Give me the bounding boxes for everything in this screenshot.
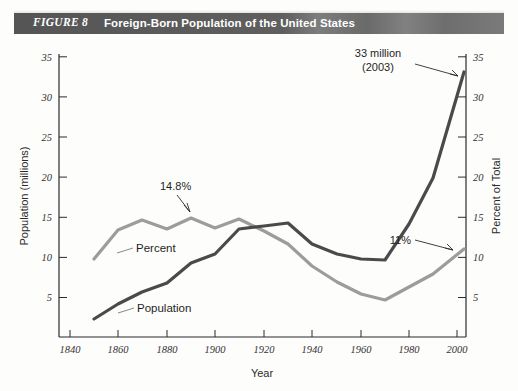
annotation-end-percent-text: 11% bbox=[390, 234, 411, 246]
y-tick-label-35: 35 bbox=[41, 52, 53, 63]
y-tick-label-5: 5 bbox=[47, 292, 52, 303]
y-tick-label-15: 15 bbox=[42, 212, 53, 223]
y-tick-label-10: 10 bbox=[42, 252, 53, 263]
chart-plot: 35 30 25 20 15 10 5 35 30 25 20 15 10 5 bbox=[0, 0, 518, 391]
y2-tick-label-5: 5 bbox=[473, 292, 478, 303]
y2-tick-label-20: 20 bbox=[473, 172, 484, 183]
x-tick-label-1900: 1900 bbox=[205, 344, 227, 355]
x-tick-label-1980: 1980 bbox=[399, 344, 421, 355]
y2-tick-label-25: 25 bbox=[473, 132, 484, 143]
y2-tick-label-15: 15 bbox=[473, 212, 484, 223]
annotation-peak-percent: 14.8% bbox=[160, 180, 191, 212]
y2-tick-label-30: 30 bbox=[472, 92, 484, 103]
x-axis-ticks bbox=[70, 330, 457, 337]
y-axis-left-title: Population (millions) bbox=[18, 146, 30, 245]
y-tick-label-30: 30 bbox=[41, 92, 53, 103]
series-label-population-group: Population bbox=[118, 302, 191, 314]
x-tick-label-1880: 1880 bbox=[157, 344, 179, 355]
annotation-peak-population-line1: 33 million bbox=[355, 47, 401, 59]
annotation-peak-percent-text: 14.8% bbox=[160, 180, 191, 192]
y-tick-label-25: 25 bbox=[42, 132, 53, 143]
x-tick-label-1840: 1840 bbox=[60, 344, 82, 355]
y2-tick-label-35: 35 bbox=[472, 52, 484, 63]
series-label-percent: Percent bbox=[136, 242, 176, 254]
x-tick-label-1860: 1860 bbox=[108, 344, 130, 355]
annotation-peak-population-line2: (2003) bbox=[362, 61, 394, 73]
annotation-peak-population: 33 million (2003) bbox=[355, 47, 458, 76]
x-tick-label-1920: 1920 bbox=[254, 344, 276, 355]
y-axis-right-tick-labels: 35 30 25 20 15 10 5 bbox=[472, 52, 484, 304]
figure-container: FIGURE 8 Foreign-Born Population of the … bbox=[0, 0, 518, 391]
series-line-population bbox=[94, 72, 464, 319]
annotation-end-percent: 11% bbox=[390, 234, 453, 250]
y-axis-left-ticks bbox=[59, 57, 67, 298]
y-axis-right-title: Percent of Total bbox=[490, 158, 502, 234]
y-axis-left-tick-labels: 35 30 25 20 15 10 5 bbox=[41, 52, 53, 304]
x-axis-tick-labels: 1840 1860 1880 1900 1920 1940 1960 1980 … bbox=[60, 344, 469, 355]
series-label-percent-group: Percent bbox=[117, 242, 176, 254]
x-tick-label-1960: 1960 bbox=[351, 344, 373, 355]
x-axis-title: Year bbox=[251, 367, 274, 379]
x-tick-label-2000: 2000 bbox=[447, 344, 469, 355]
series-label-population: Population bbox=[137, 302, 191, 314]
y-tick-label-20: 20 bbox=[42, 172, 53, 183]
y2-tick-label-10: 10 bbox=[473, 252, 484, 263]
x-tick-label-1940: 1940 bbox=[302, 344, 324, 355]
